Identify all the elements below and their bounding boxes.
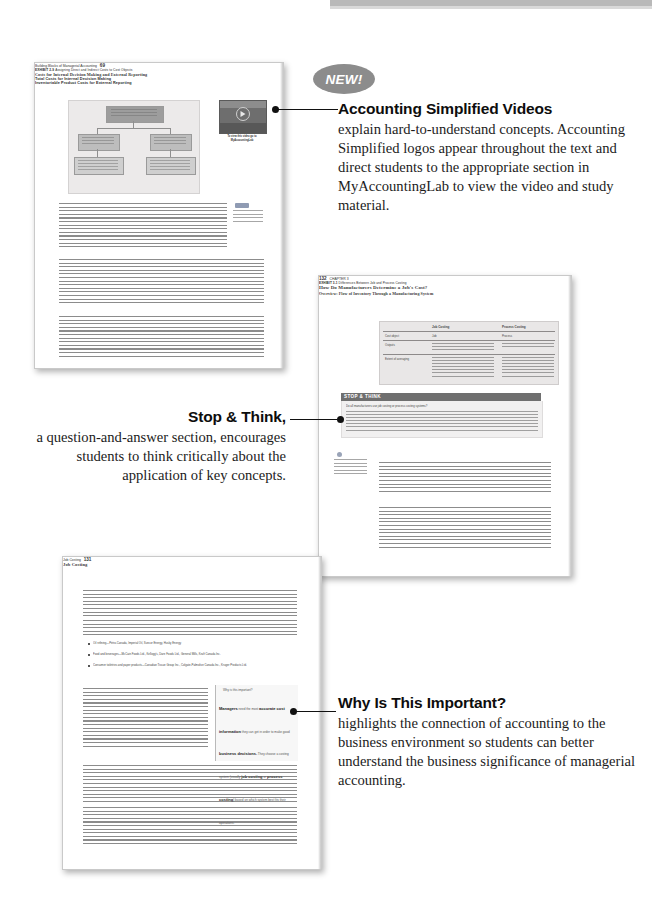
callout-segment-2: need the most <box>238 707 259 711</box>
page1-body-1 <box>59 203 227 247</box>
annotation-body-why-important: highlights the connection of accounting … <box>338 714 638 790</box>
table-cell-cost-object-job: Job <box>432 334 437 338</box>
learning-objective-icon <box>337 452 342 457</box>
leader-line-why-important <box>296 711 336 713</box>
page3-bullet-1: Oil refining—Petro-Canada, Imperial Oil,… <box>93 641 297 645</box>
annotation-why-is-this-important: Why Is This Important? highlights the co… <box>338 694 638 790</box>
new-badge: NEW! <box>313 64 375 94</box>
table-rule-1 <box>383 340 555 341</box>
book-page-top-left: Building Blocks of Managerial Accounting… <box>34 62 284 369</box>
exhibit-table-page2: Job Costing Process Costing Cost object … <box>379 321 559 385</box>
bullet-marker-2 <box>88 654 90 656</box>
page3-heading-job-costing: Job Costing <box>63 562 321 567</box>
leader-line-stop-think <box>290 419 337 421</box>
table-col-header-job-costing: Job Costing <box>432 325 449 329</box>
page1-body-3 <box>59 316 264 359</box>
table-rule-header <box>383 331 555 332</box>
annotation-title-why-important: Why Is This Important? <box>338 694 638 712</box>
page2-body-2 <box>379 507 551 549</box>
table-rule-2 <box>383 354 555 355</box>
annotation-title-stop-think: Stop & Think, <box>20 408 286 426</box>
stop-and-think-answer <box>346 411 538 433</box>
page3-body-job-costing <box>83 688 208 748</box>
page3-body-intro-2 <box>83 620 297 638</box>
book-page-bottom-left: Job Costing 131 Oil refining—Petro-Canad… <box>62 556 322 870</box>
video-thumbnail-footer-bar <box>220 123 266 133</box>
book-page-middle-right: 132 CHAPTER 3 EXHIBIT 3-1 Differences Be… <box>318 275 572 577</box>
learning-objective-note <box>334 459 367 475</box>
table-col-header-process-costing: Process Costing <box>502 325 526 329</box>
leader-line-videos <box>278 109 338 111</box>
table-row-label-outputs: Outputs <box>385 343 395 347</box>
page3-body-lower-1 <box>83 765 297 805</box>
bullet-marker-1 <box>88 643 90 645</box>
callout-segment-4: they can get in order to make good <box>241 730 290 734</box>
diagram-node-indirect-text <box>154 137 186 146</box>
new-badge-label: NEW! <box>313 64 375 94</box>
bullet-marker-3 <box>88 665 90 667</box>
leader-dot-stop-think <box>337 416 344 423</box>
callout-segment-1: Managers <box>219 706 238 711</box>
diagram-connector-indirect-down <box>170 149 171 157</box>
table-cell-outputs-process <box>502 343 554 347</box>
page3-body-intro <box>83 590 297 618</box>
diagram-node-direct-text <box>82 137 114 146</box>
exhibit-diagram-page1 <box>68 100 200 194</box>
page3-bullet-2: Food and beverages—McCain Foods Ltd., Ke… <box>93 652 297 656</box>
annotation-title-videos: Accounting Simplified Videos <box>338 100 642 118</box>
page1-body-2 <box>59 259 264 304</box>
page3-bullet-3: Consumer toiletries and paper products—C… <box>93 663 297 667</box>
callout-segment-5: business decisions. <box>219 751 257 756</box>
table-row-label-extent-of-averaging: Extent of averaging <box>385 357 409 361</box>
stop-and-think-body: Do all manufacturers use job costing or … <box>341 401 543 438</box>
page1-heading-3: Inventoriable Product Costs for External… <box>35 81 283 85</box>
stop-and-think-question: Do all manufacturers use job costing or … <box>346 404 538 408</box>
accounting-simplified-video-thumbnail[interactable] <box>219 100 267 134</box>
table-cell-cost-object-process: Process <box>502 334 512 338</box>
table-cell-averaging-process <box>502 357 554 378</box>
stop-and-think-label: STOP & THINK <box>344 394 381 399</box>
table-row-label-cost-object: Cost object <box>385 334 399 338</box>
page2-body-1 <box>379 462 551 494</box>
callout-title: Why is this important? <box>223 688 253 692</box>
diagram-connector-direct-down <box>97 149 98 157</box>
diagram-node-direct-detail-text <box>78 160 118 170</box>
page-edge-shadow <box>318 557 321 869</box>
diagram-connector-horizontal <box>97 128 170 129</box>
margin-objective-note <box>233 210 263 222</box>
page-edge-shadow <box>568 276 571 576</box>
annotation-body-videos: explain hard-to-understand concepts. Acc… <box>338 120 642 215</box>
annotation-stop-and-think: Stop & Think, a question-and-answer sect… <box>20 408 286 485</box>
why-is-this-important-callout: Why is this important? Managers need the… <box>215 685 298 761</box>
video-play-icon <box>241 111 246 117</box>
video-caption: To view this video go to MyAccountingLab <box>219 135 265 142</box>
page3-body-lower-2 <box>83 807 297 845</box>
margin-objective-tag <box>235 203 249 208</box>
diagram-node-top-text <box>111 109 157 118</box>
stop-and-think-header-bar: STOP & THINK <box>341 393 541 401</box>
table-cell-averaging-job <box>432 357 494 378</box>
diagram-connector-vertical <box>133 121 134 128</box>
page2-heading-2: Overview: Flow of Inventory Through a Ma… <box>319 291 571 296</box>
annotation-accounting-simplified-videos: Accounting Simplified Videos explain har… <box>338 100 642 215</box>
table-cell-outputs-job <box>432 343 494 351</box>
scan-edge-band-top-secondary <box>330 6 652 9</box>
annotation-body-stop-think: a question-and-answer section, encourage… <box>20 428 286 485</box>
diagram-node-indirect-detail-text <box>150 160 190 170</box>
